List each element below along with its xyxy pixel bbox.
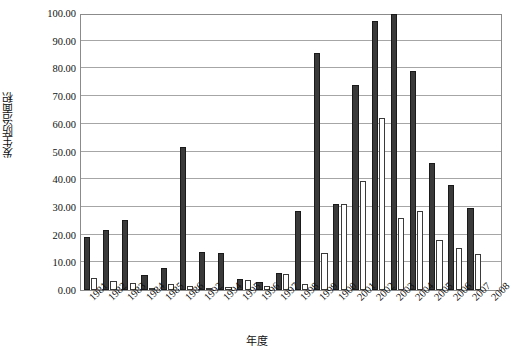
bar: [448, 185, 454, 290]
bar: [360, 181, 366, 290]
y-tick-label: 10.00: [52, 258, 76, 269]
bar-group: [369, 15, 388, 290]
y-tick-label: 90.00: [52, 37, 76, 48]
bar-group: [445, 15, 464, 290]
bar-group: [350, 15, 369, 290]
bar-group: [254, 15, 273, 290]
bar: [379, 118, 385, 290]
bar-group: [177, 15, 196, 290]
y-tick-label: 70.00: [52, 92, 76, 103]
bar-group: [330, 15, 349, 290]
bar: [122, 220, 128, 290]
bar: [398, 218, 404, 290]
bar-group: [292, 15, 311, 290]
bar-group: [100, 15, 119, 290]
bar: [391, 14, 397, 290]
y-tick-label: 50.00: [52, 148, 76, 159]
bar: [314, 53, 320, 290]
bar-group: [158, 15, 177, 290]
bar-group: [81, 15, 100, 290]
bar: [180, 147, 186, 290]
y-tick-label: 30.00: [52, 203, 76, 214]
bar: [333, 204, 339, 290]
bar: [341, 204, 347, 290]
bar-group: [484, 15, 503, 290]
bar-group: [119, 15, 138, 290]
bar: [84, 237, 90, 290]
bar: [372, 21, 378, 290]
y-tick-label: 20.00: [52, 231, 76, 242]
bar: [429, 163, 435, 290]
bar: [410, 71, 416, 290]
x-axis-title: 年度: [0, 335, 514, 347]
bar-group: [215, 15, 234, 290]
bar-group: [426, 15, 445, 290]
y-axis-tick-labels: 0.0010.0020.0030.0040.0050.0060.0070.008…: [24, 0, 76, 349]
bars-layer: [81, 15, 501, 290]
y-axis-title: 发生防治面积: [2, 92, 18, 158]
bar-group: [196, 15, 215, 290]
bar: [295, 211, 301, 290]
y-tick-label: 80.00: [52, 64, 76, 75]
bar-group: [139, 15, 158, 290]
plot-area: [80, 14, 502, 291]
bar-group: [234, 15, 253, 290]
bar-group: [465, 15, 484, 290]
y-tick-label: 0.00: [58, 286, 76, 297]
bar: [436, 240, 442, 290]
bar-group: [388, 15, 407, 290]
bar-chart: 发生防治面积 0.0010.0020.0030.0040.0050.0060.0…: [0, 0, 514, 349]
bar-group: [273, 15, 292, 290]
bar: [467, 208, 473, 290]
y-tick-label: 40.00: [52, 175, 76, 186]
bar-group: [311, 15, 330, 290]
bar-group: [407, 15, 426, 290]
bar: [103, 230, 109, 290]
y-tick-label: 60.00: [52, 120, 76, 131]
y-tick-label: 100.00: [47, 9, 76, 20]
bar: [417, 211, 423, 290]
bar: [352, 85, 358, 290]
